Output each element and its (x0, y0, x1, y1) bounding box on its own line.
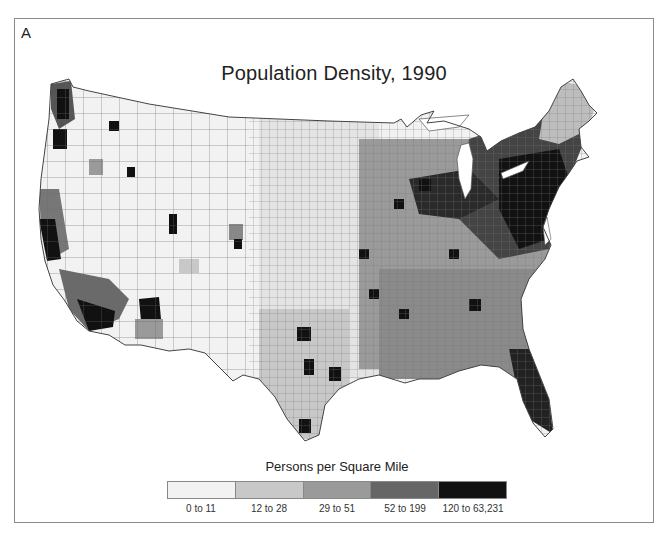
legend-label-3: 52 to 199 (371, 503, 439, 514)
legend-label-2: 29 to 51 (303, 503, 371, 514)
legend-swatch-3 (371, 482, 439, 498)
figure-frame: A Population Density, 1990 (14, 18, 654, 523)
panel-label: A (21, 24, 31, 41)
choropleth-map (29, 49, 649, 459)
legend-swatch-4 (439, 482, 506, 498)
legend-labels: 0 to 11 12 to 28 29 to 51 52 to 199 120 … (167, 503, 507, 514)
legend-title: Persons per Square Mile (167, 459, 507, 474)
legend-label-1: 12 to 28 (235, 503, 303, 514)
county-shading (29, 49, 649, 459)
legend-swatch-1 (236, 482, 304, 498)
legend-label-0: 0 to 11 (167, 503, 235, 514)
legend-bar (167, 481, 507, 499)
legend-swatch-2 (304, 482, 372, 498)
legend-swatch-0 (168, 482, 236, 498)
legend-label-4: 120 to 63,231 (439, 503, 507, 514)
